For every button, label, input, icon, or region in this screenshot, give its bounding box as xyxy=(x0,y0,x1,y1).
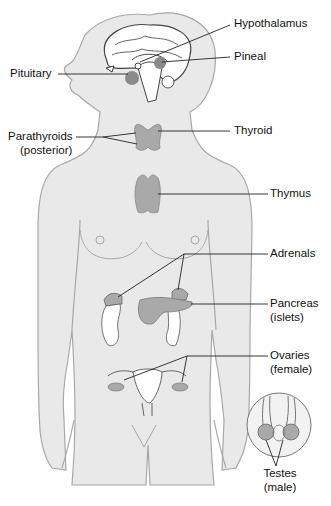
label-adrenals: Adrenals xyxy=(270,247,315,260)
thymus-gland xyxy=(135,175,160,213)
label-parathyroids: Parathyroids xyxy=(8,130,73,143)
ovary-right xyxy=(172,383,188,391)
pituitary-gland xyxy=(125,71,139,85)
testis-right xyxy=(283,424,299,440)
testis-left xyxy=(258,424,274,440)
label-pancreas: Pancreas xyxy=(270,297,319,310)
label-thymus: Thymus xyxy=(270,187,311,200)
label-testes: Testes xyxy=(258,467,302,480)
label-pituitary: Pituitary xyxy=(10,67,52,80)
label-parathyroids-sub: (posterior) xyxy=(20,144,72,157)
kidney-left xyxy=(102,304,121,346)
ovary-left xyxy=(108,383,124,391)
label-testes-sub: (male) xyxy=(258,481,302,494)
label-thyroid: Thyroid xyxy=(234,124,272,137)
label-ovaries-sub: (female) xyxy=(270,363,312,376)
label-hypothalamus: Hypothalamus xyxy=(234,17,308,30)
label-ovaries: Ovaries xyxy=(270,349,310,362)
label-pancreas-sub: (islets) xyxy=(270,311,304,324)
testes-inset xyxy=(247,393,311,457)
pineal-gland xyxy=(154,57,166,69)
label-pineal: Pineal xyxy=(234,50,266,63)
hypothalamus-gland xyxy=(135,63,141,69)
